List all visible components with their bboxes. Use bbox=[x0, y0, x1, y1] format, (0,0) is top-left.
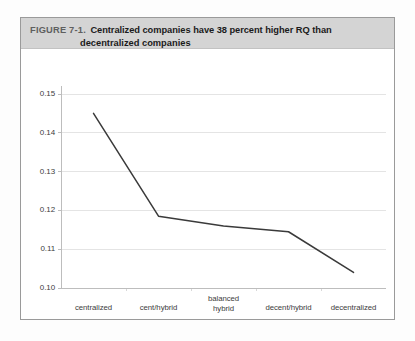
figure-caption: FIGURE 7-1. Centralized companies have 3… bbox=[30, 22, 388, 49]
x-axis-tick-label: decent/hybrid bbox=[256, 303, 321, 313]
line-chart bbox=[21, 49, 394, 321]
y-axis-tick-label: 0.10 bbox=[21, 283, 55, 292]
y-axis-tick-label: 0.14 bbox=[21, 128, 55, 137]
y-axis-tick-label: 0.15 bbox=[21, 89, 55, 98]
x-axis-tick-label: balancedhybrid bbox=[191, 294, 256, 313]
gridlines bbox=[61, 94, 386, 288]
y-axis-tick-label: 0.13 bbox=[21, 167, 55, 176]
x-axis-tick-label: decentralized bbox=[321, 303, 386, 313]
x-axis-tick-label: cent/hybrid bbox=[126, 303, 191, 313]
figure-title-line2: decentralized companies bbox=[80, 38, 388, 50]
y-axis-tick-label: 0.12 bbox=[21, 205, 55, 214]
y-axis-tick-label: 0.11 bbox=[21, 244, 55, 253]
figure-caption-band: FIGURE 7-1. Centralized companies have 3… bbox=[21, 18, 394, 49]
figure-number-label: FIGURE 7-1. bbox=[30, 25, 86, 35]
plot-region: 0.100.110.120.130.140.15 centralizedcent… bbox=[21, 49, 394, 321]
figure-title-line1: Centralized companies have 38 percent hi… bbox=[90, 25, 331, 35]
figure-box: FIGURE 7-1. Centralized companies have 3… bbox=[20, 17, 395, 320]
data-series-line bbox=[94, 113, 354, 272]
x-axis-tick-label: centralized bbox=[61, 303, 126, 313]
page-canvas: FIGURE 7-1. Centralized companies have 3… bbox=[0, 0, 415, 341]
